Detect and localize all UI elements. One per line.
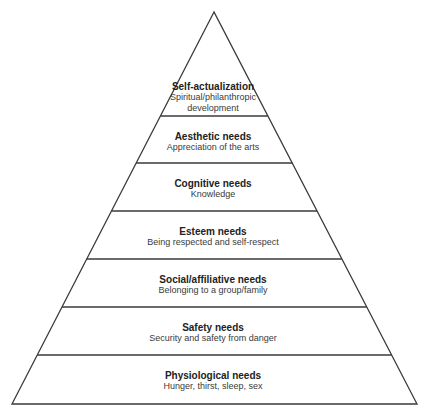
tier-esteem-needs: Esteem needs Being respected and self-re… bbox=[0, 226, 426, 248]
pyramid-diagram bbox=[0, 0, 426, 417]
tier-title: Physiological needs bbox=[0, 370, 426, 381]
tier-description: Hunger, thirst, sleep, sex bbox=[0, 381, 426, 392]
tier-description: Knowledge bbox=[0, 189, 426, 200]
tier-self-actualization: Self-actualization Spiritual/philanthrop… bbox=[0, 81, 426, 114]
tier-aesthetic-needs: Aesthetic needs Appreciation of the arts bbox=[0, 131, 426, 153]
tier-description: Being respected and self-respect bbox=[0, 237, 426, 248]
tier-cognitive-needs: Cognitive needs Knowledge bbox=[0, 178, 426, 200]
pyramid-outline bbox=[12, 12, 417, 404]
tier-description: development bbox=[0, 103, 426, 114]
tier-safety-needs: Safety needs Security and safety from da… bbox=[0, 322, 426, 344]
tier-title: Cognitive needs bbox=[0, 178, 426, 189]
tier-title: Safety needs bbox=[0, 322, 426, 333]
tier-description: Appreciation of the arts bbox=[0, 142, 426, 153]
tier-social-affiliative-needs: Social/affiliative needs Belonging to a … bbox=[0, 274, 426, 296]
tier-title: Esteem needs bbox=[0, 226, 426, 237]
tier-title: Aesthetic needs bbox=[0, 131, 426, 142]
tier-description: Belonging to a group/family bbox=[0, 285, 426, 296]
tier-description: Spiritual/philanthropic bbox=[0, 92, 426, 103]
tier-title: Self-actualization bbox=[0, 81, 426, 92]
tier-title: Social/affiliative needs bbox=[0, 274, 426, 285]
tier-physiological-needs: Physiological needs Hunger, thirst, slee… bbox=[0, 370, 426, 392]
tier-description: Security and safety from danger bbox=[0, 333, 426, 344]
